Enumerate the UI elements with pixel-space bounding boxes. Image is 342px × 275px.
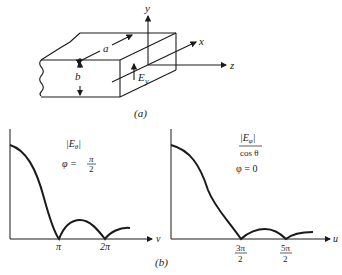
dimension-b-label: b <box>75 70 81 82</box>
field-subscript: y <box>144 77 149 86</box>
x-axis-arrow <box>112 42 196 82</box>
caption-a: (a) <box>134 107 147 120</box>
left-condition: φ = <box>62 158 77 169</box>
right-ylabel-den: cos θ <box>240 148 259 158</box>
tick-pi: π <box>56 241 62 252</box>
tick-2pi: 2π <box>100 241 111 252</box>
left-xaxis-label: v <box>156 233 161 244</box>
z-axis-label: z <box>229 59 235 71</box>
field-label: E <box>137 71 145 83</box>
left-condition-num: π <box>89 154 94 164</box>
waveguide-diagram <box>40 16 226 97</box>
dimension-a-label: a <box>103 42 109 54</box>
tick-3pi-2-den: 2 <box>238 254 243 264</box>
right-condition: φ = 0 <box>236 163 257 174</box>
tick-5pi-2-num: 5π <box>281 243 291 253</box>
right-xaxis-label: u <box>333 233 338 244</box>
broken-edge <box>40 60 44 96</box>
figure-canvas: a b y x z E y (a) |Eθ| φ = π 2 π 2π v (b… <box>0 0 342 275</box>
right-ylabel: |Eφ| <box>240 132 255 145</box>
tick-5pi-2-den: 2 <box>283 254 288 264</box>
left-ylabel: |Eθ| <box>66 138 81 151</box>
tick-3pi-2-num: 3π <box>236 243 246 253</box>
left-condition-den: 2 <box>89 164 94 174</box>
caption-b: (b) <box>155 256 168 269</box>
x-axis-label: x <box>198 35 204 47</box>
right-curve <box>171 145 313 239</box>
y-axis-label: y <box>144 2 150 14</box>
right-plot <box>171 129 330 239</box>
